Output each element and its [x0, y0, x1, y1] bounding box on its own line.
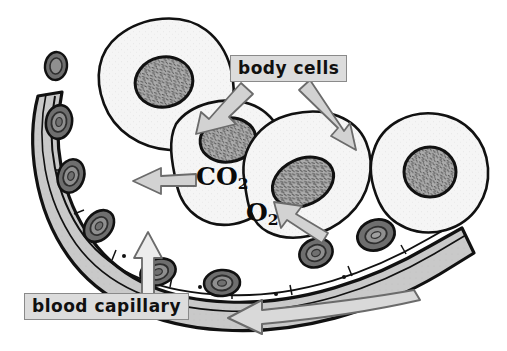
body-cell-4 [371, 113, 489, 232]
label-oxygen: O2 [246, 198, 279, 227]
label-carbon-dioxide: CO2 [196, 162, 248, 191]
o2-text: O [246, 198, 268, 227]
gas-exchange-diagram: body cells blood capillary CO2 O2 [0, 0, 507, 351]
red-blood-cell [44, 51, 69, 81]
co2-subscript: 2 [238, 174, 249, 193]
co2-text: CO [196, 162, 238, 191]
label-blood-capillary: blood capillary [24, 293, 189, 320]
o2-subscript: 2 [268, 210, 279, 229]
cell-nucleus [404, 147, 456, 197]
label-body-cells: body cells [230, 55, 347, 82]
red-blood-cell [203, 269, 241, 297]
